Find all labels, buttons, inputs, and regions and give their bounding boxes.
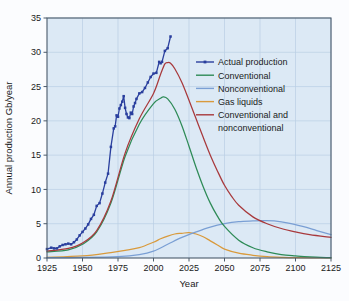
x-tick-label: 1975 <box>108 263 128 273</box>
data-point-marker <box>117 115 120 118</box>
data-point-marker <box>138 92 141 95</box>
data-point-marker <box>114 125 117 128</box>
data-point-marker <box>118 107 121 110</box>
x-axis-title: Year <box>179 278 198 289</box>
data-point-marker <box>107 172 110 175</box>
x-tick-label: 1925 <box>37 263 57 273</box>
data-point-marker <box>155 72 158 75</box>
x-tick-label: 2000 <box>143 263 163 273</box>
legend-label-continued: nonconventional <box>218 123 284 133</box>
data-point-marker <box>164 50 167 53</box>
data-point-marker <box>135 98 138 101</box>
data-point-marker <box>110 146 113 149</box>
data-point-marker <box>149 76 152 79</box>
data-point-marker <box>161 61 164 64</box>
data-point-marker <box>87 223 90 226</box>
data-point-marker <box>132 105 135 108</box>
x-tick-label: 2100 <box>285 263 305 273</box>
legend-label: Actual production <box>218 57 288 67</box>
data-point-marker <box>59 245 62 248</box>
data-point-marker <box>73 241 76 244</box>
data-point-marker <box>81 231 84 234</box>
data-point-marker <box>120 104 123 107</box>
y-axis-title: Annual production Gb/year <box>3 81 14 194</box>
data-point-marker <box>64 243 67 246</box>
data-point-marker <box>70 243 73 246</box>
data-point-marker <box>53 247 56 250</box>
legend-label: Conventional <box>218 71 271 81</box>
data-point-marker <box>61 244 64 247</box>
data-point-marker <box>169 35 172 38</box>
y-tick-label: 5 <box>36 219 41 229</box>
production-line-chart: 0510152025303519251950197520002025205020… <box>0 0 349 301</box>
data-point-marker <box>95 205 98 208</box>
x-tick-label: 2025 <box>179 263 199 273</box>
y-tick-label: 20 <box>31 116 41 126</box>
x-tick-label: 2050 <box>214 263 234 273</box>
y-tick-label: 30 <box>31 47 41 57</box>
data-point-marker <box>166 47 169 50</box>
data-point-marker <box>131 113 134 116</box>
data-point-marker <box>104 181 107 184</box>
x-tick-label: 1950 <box>72 263 92 273</box>
y-tick-label: 0 <box>36 253 41 263</box>
legend-swatch-marker <box>204 61 207 64</box>
data-point-marker <box>67 242 70 245</box>
data-point-marker <box>56 247 59 250</box>
legend-label: Conventional and <box>218 110 288 120</box>
data-point-marker <box>147 81 150 84</box>
data-point-marker <box>122 95 125 98</box>
x-tick-label: 2075 <box>250 263 270 273</box>
data-point-marker <box>152 72 155 75</box>
data-point-marker <box>84 227 87 230</box>
data-point-marker <box>125 113 128 116</box>
y-tick-label: 15 <box>31 150 41 160</box>
data-point-marker <box>144 87 147 90</box>
chart-container: 0510152025303519251950197520002025205020… <box>0 0 349 301</box>
data-point-marker <box>76 238 79 241</box>
legend-label: Gas liquids <box>218 97 263 107</box>
data-point-marker <box>98 202 101 205</box>
data-point-marker <box>141 91 144 94</box>
data-point-marker <box>121 100 124 103</box>
data-point-marker <box>128 117 131 120</box>
data-point-marker <box>134 102 137 105</box>
data-point-marker <box>101 192 104 195</box>
y-tick-label: 35 <box>31 13 41 23</box>
x-tick-label: 2125 <box>321 263 341 273</box>
data-point-marker <box>90 218 93 221</box>
y-tick-label: 10 <box>31 185 41 195</box>
y-tick-label: 25 <box>31 82 41 92</box>
data-point-marker <box>50 246 53 249</box>
data-point-marker <box>124 107 127 110</box>
data-point-marker <box>93 214 96 217</box>
legend-label: Nonconventional <box>218 84 285 94</box>
data-point-marker <box>78 234 81 237</box>
